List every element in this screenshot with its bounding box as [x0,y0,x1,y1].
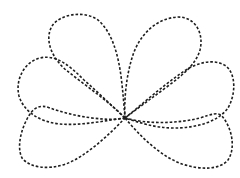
petal-lower-right [125,114,232,168]
petal-upper-left [49,14,125,118]
petal-middle-left [18,57,125,124]
petal-middle-right [125,62,234,128]
flower-diagram: Dashed outline drawing of a six-petal fl… [0,0,240,178]
flower-center-point [123,116,126,119]
flower-svg [0,0,240,178]
